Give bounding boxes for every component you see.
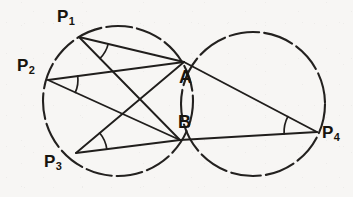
chord-p1-a: [79, 37, 184, 62]
chord-p4-a: [184, 62, 317, 132]
left-circle: [43, 26, 193, 176]
geometry-figure: P1 P2 P3 P4 A B: [0, 0, 353, 197]
chord-p3-a: [76, 62, 184, 153]
angle-arc-p2: [75, 76, 78, 92]
label-p2: P2: [17, 57, 34, 74]
chord-p3-b: [76, 140, 180, 153]
chord-p4-b: [180, 132, 317, 140]
right-circle: [181, 32, 325, 176]
chord-p2-a: [48, 62, 184, 80]
label-p4: P4: [322, 124, 339, 141]
label-a: A: [179, 68, 192, 86]
angle-arc-p4: [284, 117, 288, 134]
label-b: B: [178, 113, 191, 131]
label-p1: P1: [57, 8, 74, 25]
label-p3: P3: [44, 153, 61, 170]
chord-p1-b: [79, 37, 180, 140]
chord-p2-b: [48, 80, 180, 140]
angle-arc-p1: [100, 44, 108, 59]
angle-arc-p3: [100, 133, 107, 149]
